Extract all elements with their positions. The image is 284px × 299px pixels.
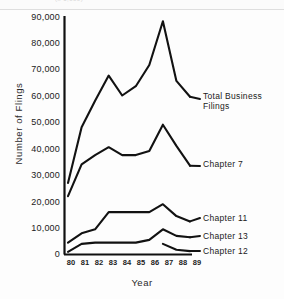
series-line bbox=[163, 244, 190, 251]
series-lines bbox=[68, 21, 190, 252]
series-line bbox=[68, 125, 190, 197]
series-label-chapter-13: Chapter 13 bbox=[203, 232, 248, 242]
series-label-chapter-7: Chapter 7 bbox=[203, 160, 243, 170]
legend-connector bbox=[190, 97, 200, 99]
series-line bbox=[68, 204, 190, 242]
x-tick-label: 89 bbox=[189, 258, 205, 267]
chart-figure: (x 1,000) Number of Flings 90,000 80,000… bbox=[0, 0, 284, 299]
series-label-line: Filings bbox=[203, 102, 262, 112]
series-line bbox=[68, 21, 190, 183]
series-label-total-business-filings: Total Business Filings bbox=[203, 92, 262, 111]
axes bbox=[64, 16, 192, 255]
legend-connector-marks bbox=[190, 97, 200, 251]
series-label-chapter-11: Chapter 11 bbox=[203, 214, 247, 224]
legend-connector bbox=[190, 218, 200, 221]
x-axis-title: Year bbox=[0, 277, 284, 288]
series-label-chapter-12: Chapter 12 bbox=[203, 247, 248, 257]
legend-connector bbox=[190, 236, 200, 237]
